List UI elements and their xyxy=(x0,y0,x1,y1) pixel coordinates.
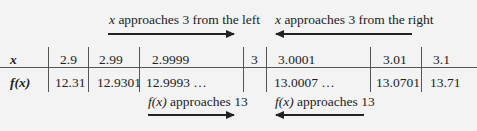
x-value: 3.0001 xyxy=(278,52,315,68)
arrow-left-icon xyxy=(276,114,364,116)
column-divider xyxy=(266,47,267,92)
right-approach-label: x approaches 3 from the right xyxy=(275,12,434,28)
fx-value: 12.31 xyxy=(55,75,85,91)
x-value: 3.01 xyxy=(383,52,407,68)
fx-value: 12.9993 … xyxy=(146,75,207,91)
variable-fx: f(x) xyxy=(275,94,294,109)
column-divider xyxy=(243,47,244,92)
row-header-fx: f(x) xyxy=(10,75,30,91)
column-divider xyxy=(421,47,422,92)
arrow-right-icon xyxy=(108,33,234,35)
x-value: 3.1 xyxy=(433,52,450,68)
arrow-left-icon xyxy=(276,33,412,35)
fx-value: 13.0701 xyxy=(376,75,420,91)
label-text: approaches 13 xyxy=(167,94,248,109)
label-text: approaches 13 xyxy=(294,94,375,109)
row-header-x: x xyxy=(10,52,17,68)
variable-fx: f(x) xyxy=(148,94,167,109)
column-divider xyxy=(88,47,89,92)
column-divider xyxy=(370,47,371,92)
fx-value: 13.0007 … xyxy=(274,75,335,91)
x-value: 2.99 xyxy=(99,52,123,68)
fx-left-approach-label: f(x) approaches 13 xyxy=(148,94,248,110)
left-approach-label: x approaches 3 from the left xyxy=(109,12,260,28)
x-value: 2.9999 xyxy=(152,52,189,68)
label-text: approaches 3 from the left xyxy=(115,12,260,27)
x-value: 3 xyxy=(251,52,258,68)
x-value: 2.9 xyxy=(60,52,77,68)
arrow-right-icon xyxy=(148,114,234,116)
fx-value: 12.9301 xyxy=(97,75,141,91)
label-text: approaches 3 from the right xyxy=(281,12,434,27)
column-divider xyxy=(48,47,49,92)
fx-value: 13.71 xyxy=(430,75,460,91)
fx-right-approach-label: f(x) approaches 13 xyxy=(275,94,375,110)
